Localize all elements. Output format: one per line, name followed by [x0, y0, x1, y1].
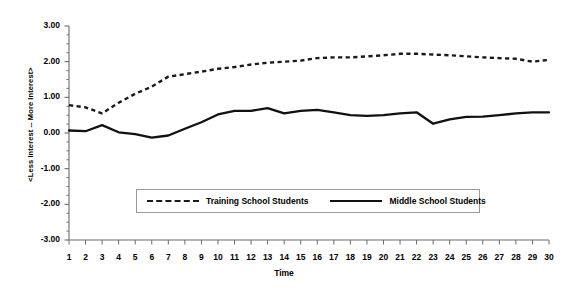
- legend-dashed-line-icon: [147, 196, 199, 206]
- x-axis-title: Time: [0, 268, 568, 278]
- legend-solid-line-icon: [330, 196, 382, 206]
- x-axis-tick-label: 30: [539, 252, 559, 262]
- x-axis-tick-labels: 1234567891011121314151617181920212223242…: [0, 0, 568, 300]
- legend-label: Middle School Students: [389, 196, 485, 206]
- legend-entry: Training School Students: [147, 196, 308, 206]
- legend-label: Training School Students: [206, 196, 308, 206]
- legend-entry: Middle School Students: [330, 196, 485, 206]
- line-chart: <Less Interest -- More Interest> 3.002.0…: [0, 0, 568, 300]
- chart-legend: Training School StudentsMiddle School St…: [136, 189, 480, 213]
